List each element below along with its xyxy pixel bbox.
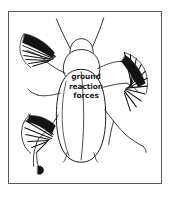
hind-right-leg [105,110,126,135]
force-vector [26,135,50,140]
hind-left-leg-force-fan [21,114,55,175]
middle-left-leg [38,93,61,96]
front-left-leg-force-fan [20,34,56,68]
hind-left-leg-tarsus [33,139,38,167]
front-right-leg [98,61,121,68]
figure-page: ground reaction forces [0,0,170,198]
middle-right-leg-force-fan [122,53,148,111]
force-fan-tail-tip-icon [38,166,44,174]
left-antenna-icon [56,19,70,49]
cockroach-diagram [9,12,161,183]
hind-right-leg-claw-icon [143,146,146,152]
figure-frame: ground reaction forces [8,11,162,184]
force-vector [26,59,51,60]
abdomen-group [56,69,105,162]
middle-right-leg [104,83,127,87]
force-vector [28,140,49,141]
right-antenna-icon [92,18,104,49]
abdomen-outline [56,69,105,162]
middle-left-leg-tarsus [28,89,38,95]
hind-right-leg-tarsus [125,135,143,147]
hind-right-leg-spur [109,121,114,145]
